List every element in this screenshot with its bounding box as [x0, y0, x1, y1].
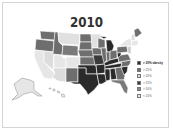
state-montana: [58, 32, 80, 45]
state-massachusetts-ct-ri: [132, 40, 138, 46]
legend-item: > 25%: [137, 67, 163, 73]
state-florida: [111, 80, 128, 94]
legend-item: > 10%: [137, 86, 163, 92]
legend-label: > 15%: [143, 81, 152, 85]
state-utah: [54, 55, 66, 68]
state-iowa: [92, 48, 102, 55]
state-maine: [134, 28, 142, 37]
state-mississippi: [105, 69, 110, 81]
state-wyoming: [62, 45, 78, 56]
state-washington: [40, 31, 55, 40]
legend-swatch: [137, 87, 141, 91]
legend-label: > 10%: [143, 87, 152, 91]
state-alaska: [12, 78, 42, 100]
state-pennsylvania: [117, 46, 128, 53]
legend-swatch: [137, 81, 141, 85]
state-north-dakota: [80, 34, 92, 42]
legend: > 30% obesity > 25% > 20% > 15% > 10% < …: [137, 60, 163, 99]
state-hawaii: [49, 88, 65, 97]
legend-swatch: [137, 61, 141, 65]
legend-item: < 10%: [137, 93, 163, 99]
state-kansas: [80, 57, 95, 65]
legend-item: > 30% obesity: [137, 60, 163, 66]
legend-swatch: [137, 94, 141, 98]
state-new-york: [119, 38, 132, 46]
state-new-mexico: [66, 68, 78, 82]
legend-label: > 25%: [143, 68, 152, 72]
legend-swatch: [137, 68, 141, 72]
state-wisconsin: [98, 38, 105, 48]
legend-label: > 30% obesity: [143, 61, 163, 65]
legend-swatch: [137, 74, 141, 78]
legend-item: > 20%: [137, 73, 163, 79]
legend-item: > 15%: [137, 80, 163, 86]
legend-label: > 20%: [143, 74, 152, 78]
state-arizona: [52, 68, 66, 82]
state-nj-de-md: [127, 46, 131, 54]
state-south-dakota: [79, 42, 92, 50]
state-arkansas: [96, 64, 105, 74]
state-michigan: [106, 40, 114, 52]
legend-label: < 10%: [143, 94, 152, 98]
